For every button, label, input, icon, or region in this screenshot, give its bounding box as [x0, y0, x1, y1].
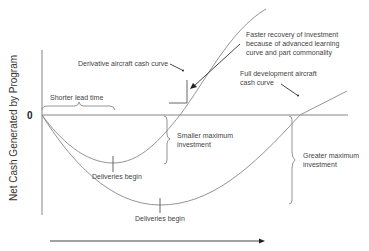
deliveries-begin-label-derivative: Deliveries begin	[92, 173, 142, 181]
slope-triangle	[169, 80, 187, 103]
derivative-cash-curve	[42, 9, 266, 163]
smaller-max-label-1: Smaller maximum	[177, 132, 233, 139]
faster-recovery-label-2: because of advanced learning	[246, 40, 340, 48]
greater-max-label-1: Greater maximum	[303, 152, 359, 159]
greater-max-brace	[289, 116, 295, 204]
smaller-max-label-2: investment	[177, 141, 211, 148]
full-dev-leader-arrow	[281, 84, 299, 97]
faster-recovery-label-3: curve and part commonality	[246, 49, 332, 57]
zero-label: 0	[27, 110, 33, 121]
x-axis-arrow	[50, 239, 265, 244]
faster-recovery-arrow	[190, 44, 240, 89]
deliveries-begin-label-full: Deliveries begin	[135, 215, 185, 223]
derivative-leader-arrow	[170, 64, 184, 72]
greater-max-label-2: investment	[303, 161, 337, 168]
y-axis-label: Net Cash Generated by Program	[8, 55, 19, 201]
cash-curve-diagram: Net Cash Generated by Program 0 Shorter …	[0, 0, 369, 251]
full-dev-curve-label-1: Full development aircraft	[240, 70, 317, 78]
shorter-lead-time-label: Shorter lead time	[50, 94, 103, 101]
full-dev-curve-label-2: cash curve	[240, 79, 274, 86]
smaller-max-brace	[164, 116, 170, 164]
derivative-curve-label: Derivative aircraft cash curve	[78, 60, 168, 67]
faster-recovery-label-1: Faster recovery of investment	[246, 31, 338, 39]
full-development-cash-curve	[42, 91, 347, 205]
lead-time-brace	[42, 102, 115, 110]
